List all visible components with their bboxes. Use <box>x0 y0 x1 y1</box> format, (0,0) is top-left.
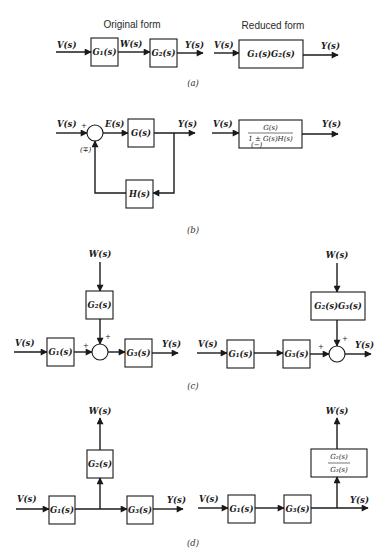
summing-junction <box>329 346 345 362</box>
summing-junction <box>87 125 103 141</box>
diagram-a-original: V(s) G₁(s) W(s) G₂(s) Y(s) <box>56 38 204 67</box>
diagram-c-reduced: W(s) G₂(s)G₃(s) + V(s) G₁(s) G₃(s) + Y(s… <box>197 250 374 368</box>
diagram-b-reduced: V(s) G(s) 1 ± G(s)H(s) (−) Y(s) <box>212 119 341 149</box>
label-W: W(s) <box>326 250 348 260</box>
sign-plus-left: + <box>83 342 89 350</box>
block-G2-label: G₂(s) <box>88 300 112 310</box>
block-G1G2-label: G₁(s)G₂(s) <box>247 49 295 59</box>
caption-a: (a) <box>187 78 199 88</box>
summing-junction <box>92 344 108 360</box>
header-reduced-form: Reduced form <box>242 20 305 31</box>
label-Y: Y(s) <box>162 339 181 349</box>
caption-d: (d) <box>187 538 199 548</box>
label-V: V(s) <box>57 40 76 50</box>
label-V: V(s) <box>199 494 218 504</box>
label-V: V(s) <box>57 119 76 129</box>
label-V: V(s) <box>198 339 217 349</box>
label-V: V(s) <box>214 40 233 50</box>
block-H-label: H(s) <box>128 189 150 199</box>
diagram-d-original: W(s) G₂(s) V(s) G₁(s) G₃(s) Y(s) <box>16 406 186 524</box>
block-G3-label: G₃(s) <box>285 349 309 359</box>
label-Y: Y(s) <box>167 495 186 505</box>
ratio-denominator: G₃(s) <box>330 466 348 474</box>
block-diagram-reduction-figure: Original form Reduced form V(s) G₁(s) W(… <box>0 0 387 556</box>
label-Y: Y(s) <box>355 340 374 350</box>
block-G1-label: G₁(s) <box>50 505 74 515</box>
block-G-label: G(s) <box>131 128 151 138</box>
closed-loop-numerator: G(s) <box>263 124 278 132</box>
label-Y: Y(s) <box>321 41 340 51</box>
sign-plus: + <box>81 122 87 130</box>
label-V: V(s) <box>17 494 36 504</box>
block-G2-label: G₂(s) <box>88 459 112 469</box>
label-V: V(s) <box>213 119 232 129</box>
sign-plus-top: + <box>105 333 111 341</box>
block-G2-label: G₂(s) <box>152 48 176 58</box>
label-Y: Y(s) <box>185 40 204 50</box>
diagram-d-reduced: W(s) G₂(s) G₃(s) V(s) G₁(s) G₃(s) Y(s) <box>198 406 369 523</box>
label-Y: Y(s) <box>322 119 341 129</box>
block-G3-label: G₃(s) <box>286 504 310 514</box>
label-W: W(s) <box>89 249 111 259</box>
diagram-c-original: W(s) G₂(s) + V(s) G₁(s) + G₃(s) Y(s) <box>14 249 181 367</box>
label-E: E(s) <box>104 119 124 129</box>
diagram-a-reduced: V(s) G₁(s)G₂(s) Y(s) <box>214 40 340 68</box>
label-Y: Y(s) <box>350 495 369 505</box>
block-G1-label: G₁(s) <box>230 504 254 514</box>
sign-plus-left: + <box>318 343 324 351</box>
caption-b: (b) <box>187 225 199 235</box>
sign-plus-top: + <box>342 335 348 343</box>
block-G2G3-label: G₂(s)G₃(s) <box>314 301 362 311</box>
header-original-form: Original form <box>103 19 160 30</box>
block-G1-label: G₁(s) <box>49 347 73 357</box>
ratio-numerator: G₂(s) <box>330 453 348 461</box>
diagram-b-original: V(s) + (∓) E(s) G(s) Y(s) H(s) <box>56 119 197 208</box>
label-Y: Y(s) <box>178 119 197 129</box>
sign-feedback: (∓) <box>80 146 92 154</box>
caption-c: (c) <box>187 381 198 391</box>
feedback-path-to-sum <box>95 141 126 193</box>
label-W: W(s) <box>326 406 348 416</box>
block-G1-label: G₁(s) <box>229 349 253 359</box>
block-G3-label: G₃(s) <box>128 505 152 515</box>
label-V: V(s) <box>15 338 34 348</box>
feedback-path-to-H <box>153 133 174 193</box>
block-G3-label: G₃(s) <box>127 348 151 358</box>
label-W: W(s) <box>89 406 111 416</box>
label-W: W(s) <box>120 39 142 49</box>
block-G1-label: G₁(s) <box>93 47 117 57</box>
denominator-sign-note: (−) <box>251 141 263 149</box>
